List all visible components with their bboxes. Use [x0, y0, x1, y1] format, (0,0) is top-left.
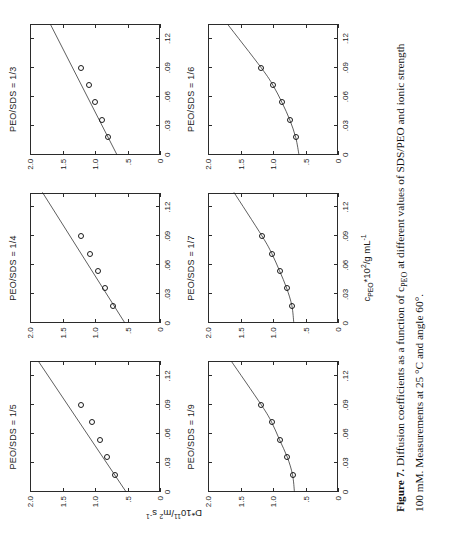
panel-title: PEO/SDS = 1/9	[186, 359, 196, 514]
data-point	[289, 303, 295, 309]
y-tick-label: 2.0	[26, 327, 35, 338]
y-tick-right	[338, 24, 339, 28]
y-tick-label: 0	[334, 327, 343, 331]
y-tick-label: 2.0	[204, 159, 213, 170]
y-tick-label: 0	[156, 496, 165, 500]
y-tick-label: .5	[123, 159, 132, 166]
x-tick-label: 0	[163, 490, 172, 494]
y-tick	[338, 319, 339, 323]
x-tick-label: .03	[341, 120, 350, 131]
fit-line	[30, 361, 160, 492]
y-tick-label: 2.0	[204, 327, 213, 338]
caption-text-a: Diffusion coefficients as a function of …	[394, 287, 406, 469]
x-tick-label: .12	[163, 202, 172, 213]
data-point	[104, 454, 110, 460]
y-tick-label: 1.0	[269, 327, 278, 338]
figure-caption: Figure 7. Diffusion coefficients as a fu…	[392, 26, 427, 512]
fit-line	[208, 24, 338, 155]
data-point	[277, 437, 283, 443]
figure-7: PEO/SDS = 1/50.03.06.09.120.51.01.52.0PE…	[0, 0, 466, 548]
caption-subscript: PEO	[400, 272, 409, 287]
panel-title: PEO/SDS = 1/6	[186, 22, 196, 177]
y-tick-label: 1.0	[91, 496, 100, 507]
data-point	[270, 82, 276, 88]
plot-panel-1-4: PEO/SDS = 1/40.03.06.09.120.51.01.52.0	[8, 191, 180, 346]
data-point	[78, 233, 84, 239]
data-point	[293, 134, 299, 140]
y-tick	[338, 488, 339, 492]
data-point	[86, 82, 92, 88]
x-tick-label: 0	[341, 152, 350, 156]
y-tick-label: 1.5	[58, 159, 67, 170]
y-tick-label: 1.5	[236, 496, 245, 507]
x-tick-label: 0	[341, 490, 350, 494]
y-tick-label: 1.0	[269, 496, 278, 507]
x-tick-label: .06	[163, 260, 172, 271]
y-tick-label: 2.0	[204, 496, 213, 507]
y-tick-label: 0	[334, 496, 343, 500]
fit-line	[208, 361, 338, 492]
fit-line	[30, 24, 160, 155]
plot-area: 0.03.06.09.120.51.01.52.0	[208, 361, 338, 492]
y-tick-label: 1.0	[91, 159, 100, 170]
fit-line	[208, 193, 338, 324]
data-point	[78, 65, 84, 71]
x-tick-label: .03	[163, 457, 172, 468]
x-tick-label: .12	[163, 370, 172, 381]
x-tick-label: .03	[163, 289, 172, 300]
data-point	[112, 472, 118, 478]
y-tick	[338, 151, 339, 155]
x-tick-label: 0	[163, 152, 172, 156]
x-tick-label: .03	[341, 457, 350, 468]
plot-area: 0.03.06.09.120.51.01.52.0	[30, 361, 160, 492]
y-tick	[160, 151, 161, 155]
data-point	[269, 251, 275, 257]
x-tick-label: .06	[163, 91, 172, 102]
panel-title: PEO/SDS = 1/3	[8, 22, 18, 177]
x-tick-label: .06	[341, 428, 350, 439]
y-tick-right	[160, 361, 161, 365]
data-point	[258, 65, 264, 71]
plot-panel-1-7: PEO/SDS = 1/70.03.06.09.120.51.01.52.0	[186, 191, 358, 346]
panel-title: PEO/SDS = 1/5	[8, 359, 18, 514]
x-tick-label: .12	[341, 202, 350, 213]
panel-title: PEO/SDS = 1/7	[186, 191, 196, 346]
data-point	[290, 472, 296, 478]
plot-panel-1-6: PEO/SDS = 1/60.03.06.09.120.51.01.52.0	[186, 22, 358, 177]
x-axis-label: cPEO*102/g mL-1	[360, 22, 374, 514]
x-tick-label: 0	[341, 321, 350, 325]
plot-area: 0.03.06.09.120.51.01.52.0	[30, 193, 160, 324]
y-tick-right	[338, 361, 339, 365]
x-tick-label: .12	[341, 33, 350, 44]
y-tick-label: 1.5	[58, 496, 67, 507]
panel-title: PEO/SDS = 1/4	[8, 191, 18, 346]
y-tick-label: .5	[301, 327, 310, 334]
x-tick-label: .06	[341, 91, 350, 102]
x-tick-label: .03	[341, 289, 350, 300]
y-tick-label: 1.5	[236, 327, 245, 338]
y-tick-right	[160, 24, 161, 28]
y-tick-label: .5	[301, 496, 310, 503]
y-tick-label: .5	[123, 327, 132, 334]
x-tick-label: .03	[163, 120, 172, 131]
plot-panel-1-5: PEO/SDS = 1/50.03.06.09.120.51.01.52.0	[8, 359, 180, 514]
data-point	[97, 437, 103, 443]
y-tick-label: .5	[301, 159, 310, 166]
y-tick-label: 0	[156, 327, 165, 331]
x-tick-label: .09	[341, 62, 350, 73]
plot-area: 0.03.06.09.120.51.01.52.0	[208, 193, 338, 324]
y-tick	[160, 319, 161, 323]
x-tick-label: .12	[341, 370, 350, 381]
plot-area: 0.03.06.09.120.51.01.52.0	[30, 24, 160, 155]
y-tick-label: 2.0	[26, 159, 35, 170]
x-tick-label: .09	[163, 399, 172, 410]
y-axis-label: D*1011/m2 s-1	[44, 508, 304, 520]
caption-label: Figure 7.	[394, 469, 406, 512]
x-tick-label: .12	[163, 33, 172, 44]
y-tick-label: 1.0	[91, 327, 100, 338]
plot-panel-1-3: PEO/SDS = 1/30.03.06.09.120.51.01.52.0	[8, 22, 180, 177]
y-tick-label: 0	[156, 159, 165, 163]
x-tick-label: .09	[163, 62, 172, 73]
x-tick-label: 0	[163, 321, 172, 325]
data-point	[99, 117, 105, 123]
